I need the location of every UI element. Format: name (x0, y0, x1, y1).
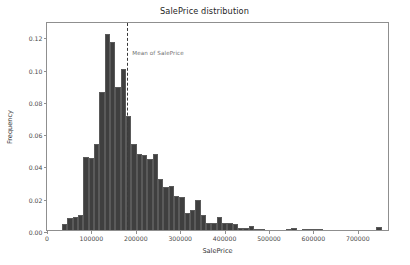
y-tick-mark (44, 103, 48, 104)
histogram-bar (376, 227, 381, 230)
chart-title: SalePrice distribution (0, 6, 410, 16)
y-tick-label: 0.10 (29, 67, 43, 74)
y-tick-mark (44, 167, 48, 168)
x-tick-mark (358, 230, 359, 234)
y-axis-label-text: Frequency (6, 109, 14, 143)
mean-line-label: Mean of SalePrice (132, 50, 184, 56)
x-tick-label: 500000 (257, 235, 281, 242)
x-tick-label: 700000 (346, 235, 370, 242)
x-tick-label: 100000 (80, 235, 104, 242)
plot-axes: 0.000.020.040.060.080.100.12 01000002000… (46, 22, 389, 231)
mean-line (127, 23, 128, 230)
x-tick-label: 300000 (168, 235, 192, 242)
chart-figure: SalePrice distribution Frequency 0.000.0… (0, 0, 410, 265)
y-tick-label: 0.00 (29, 229, 43, 236)
y-tick-mark (44, 135, 48, 136)
y-tick-label: 0.02 (29, 196, 43, 203)
histogram-bar (318, 229, 323, 230)
histogram-bar (291, 228, 296, 230)
x-tick-mark (47, 230, 48, 234)
histogram-plot-area (47, 23, 388, 230)
y-tick-label: 0.04 (29, 164, 43, 171)
y-tick-mark (44, 38, 48, 39)
x-tick-mark (136, 230, 137, 234)
chart-title-text: SalePrice distribution (160, 6, 249, 16)
x-tick-mark (313, 230, 314, 234)
x-tick-mark (91, 230, 92, 234)
x-tick-mark (180, 230, 181, 234)
x-tick-label: 400000 (213, 235, 237, 242)
x-tick-label: 200000 (124, 235, 148, 242)
x-axis-label-text: SalePrice (202, 247, 232, 255)
y-tick-mark (44, 71, 48, 72)
x-tick-mark (269, 230, 270, 234)
y-tick-label: 0.08 (29, 99, 43, 106)
x-tick-label: 0 (45, 235, 49, 242)
y-tick-label: 0.12 (29, 35, 43, 42)
y-tick-mark (44, 200, 48, 201)
y-axis-label: Frequency (5, 22, 15, 231)
x-axis-label: SalePrice (46, 247, 389, 255)
histogram-bar (259, 229, 264, 230)
y-tick-label: 0.06 (29, 132, 43, 139)
x-tick-label: 600000 (302, 235, 326, 242)
x-tick-mark (225, 230, 226, 234)
